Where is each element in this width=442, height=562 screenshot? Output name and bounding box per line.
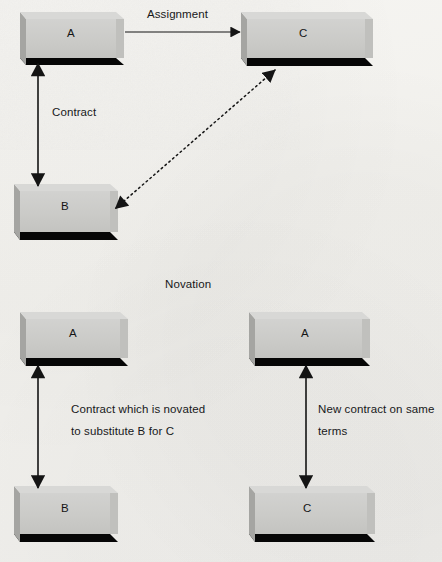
node-nov-right-c — [249, 486, 375, 542]
node-label-top-c: C — [299, 27, 308, 39]
shapes-layer — [0, 0, 442, 562]
node-top-b — [14, 184, 118, 240]
edge-label-newcontract-line1: New contract on same — [318, 401, 434, 418]
node-label-top-a: A — [67, 27, 75, 39]
edge-label-assignment: Assignment — [147, 6, 208, 23]
edge-assigned-benefit — [116, 70, 275, 208]
node-label-nov-right-c: C — [303, 502, 312, 514]
node-label-top-b: B — [61, 200, 69, 212]
node-label-nov-left-a: A — [69, 327, 77, 339]
node-nov-right-a — [249, 312, 370, 366]
node-label-nov-right-a: A — [301, 327, 309, 339]
edge-label-newcontract-line2: terms — [318, 423, 347, 440]
edge-label-novated-line2: to substitute B for C — [71, 423, 174, 440]
node-nov-left-a — [20, 312, 128, 366]
diagram-canvas: A C B A B A C Assignment Contract Novati… — [0, 0, 442, 562]
section-heading-novation: Novation — [165, 276, 211, 293]
node-top-c — [241, 12, 373, 66]
node-nov-left-b — [14, 486, 118, 542]
edge-label-contract: Contract — [52, 104, 96, 121]
node-label-nov-left-b: B — [61, 502, 69, 514]
edge-label-novated-line1: Contract which is novated — [71, 401, 205, 418]
